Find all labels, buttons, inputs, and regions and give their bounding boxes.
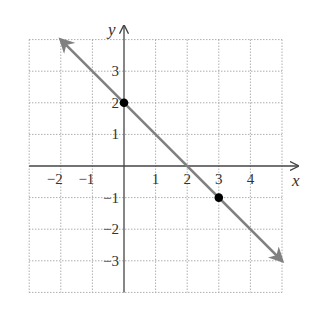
y-tick-label: −3	[103, 253, 119, 269]
x-tick-label: 3	[215, 171, 223, 187]
data-point	[120, 99, 129, 108]
y-tick-label: 3	[112, 63, 120, 79]
coordinate-plane: −2−11234321−1−2−3 x y	[0, 0, 319, 310]
x-tick-label: 4	[247, 171, 255, 187]
y-tick-label: −2	[103, 221, 119, 237]
x-axis-label: x	[291, 171, 300, 190]
line-series	[61, 40, 282, 261]
line-y-equals-neg-x-plus-2	[61, 40, 282, 261]
x-tick-label: −2	[47, 171, 63, 187]
x-tick-label: 1	[152, 171, 160, 187]
y-axis-label: y	[106, 20, 116, 39]
axes	[29, 26, 298, 293]
x-tick-label: 2	[183, 171, 191, 187]
y-tick-label: −1	[103, 190, 119, 206]
y-tick-label: 1	[112, 126, 120, 142]
x-tick-label: −1	[78, 171, 94, 187]
data-point	[215, 193, 224, 202]
